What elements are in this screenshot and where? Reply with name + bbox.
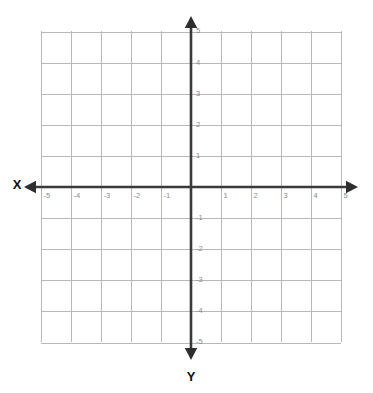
y-tick-label: -5 [196, 337, 203, 346]
y-tick-label: 2 [196, 120, 200, 129]
y-tick-label: -1 [196, 213, 203, 222]
y-tick-label: 4 [196, 58, 200, 67]
y-tick-label: 5 [196, 26, 200, 35]
x-tick-label: 3 [284, 191, 288, 200]
x-tick-label: 2 [254, 191, 258, 200]
y-tick-label: -3 [196, 275, 203, 284]
x-tick-label: 1 [224, 191, 228, 200]
y-axis-label: Y [187, 369, 196, 384]
x-tick-label: -5 [44, 191, 51, 200]
x-tick-label: -3 [104, 191, 111, 200]
coordinate-plane-canvas: -5-4-3-2-112345 -5-4-3-2-112345 X Y [0, 0, 373, 393]
x-tick-label: -4 [74, 191, 81, 200]
x-axis-label: X [13, 177, 22, 192]
x-tick-label: -1 [164, 191, 171, 200]
y-tick-label: -4 [196, 306, 203, 315]
coordinate-plane-figure: -5-4-3-2-112345 -5-4-3-2-112345 X Y [0, 0, 373, 393]
y-tick-label: -2 [196, 244, 203, 253]
x-tick-label: 5 [344, 191, 348, 200]
x-tick-label: 4 [314, 191, 318, 200]
y-tick-label: 1 [196, 151, 200, 160]
y-tick-label: 3 [196, 89, 200, 98]
x-tick-label: -2 [134, 191, 141, 200]
